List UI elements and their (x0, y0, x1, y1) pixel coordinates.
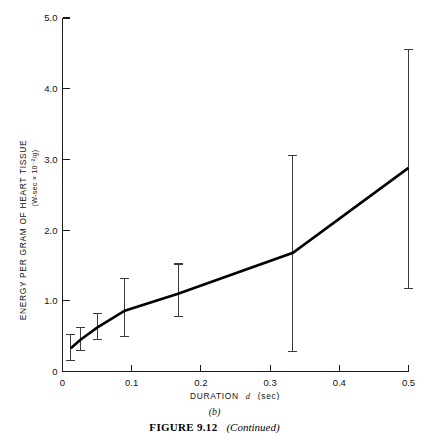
figure-page: 01.02.03.04.05.0 00.10.20.30.40.5 ENERGY… (0, 0, 429, 441)
figure-caption-note: (Continued) (226, 421, 279, 433)
y-axis-units: (W-sec × 10⁻²/g) (30, 150, 39, 207)
x-tick-label: 0.2 (194, 377, 207, 388)
panel-label: (b) (0, 406, 429, 417)
y-axis-ticks: 01.02.03.04.05.0 (44, 12, 69, 377)
x-axis-title-units: (sec) (258, 391, 280, 400)
y-tick-label: 1.0 (44, 295, 57, 306)
data-curve (71, 168, 409, 348)
y-tick-label: 2.0 (44, 225, 57, 236)
x-tick-label: 0.3 (263, 377, 276, 388)
x-tick-label: 0.4 (333, 377, 346, 388)
y-tick-label: 3.0 (44, 154, 57, 165)
x-tick-label: 0.5 (402, 377, 415, 388)
x-axis-title-group: DURATION d (sec) (190, 391, 280, 400)
x-axis-ticks: 00.10.20.30.40.5 (60, 365, 415, 388)
y-tick-label: 5.0 (44, 12, 57, 23)
y-tick-label: 4.0 (44, 83, 57, 94)
x-tick-label: 0.1 (125, 377, 138, 388)
x-axis-title-prefix: DURATION (190, 391, 239, 400)
x-axis-title-symbol: d (246, 392, 251, 400)
figure-caption: FIGURE 9.12(Continued) (0, 421, 429, 433)
energy-vs-duration-chart: 01.02.03.04.05.0 00.10.20.30.40.5 ENERGY… (0, 0, 429, 400)
y-tick-label: 0 (52, 366, 57, 377)
y-axis-title: ENERGY PER GRAM OF HEART TISSUE (18, 140, 28, 321)
x-tick-label: 0 (60, 377, 65, 388)
figure-caption-label: FIGURE 9.12 (149, 421, 217, 433)
x-axis-title: DURATION d (sec) (190, 391, 280, 400)
y-axis-title-group: ENERGY PER GRAM OF HEART TISSUE (W-sec ×… (18, 140, 39, 321)
